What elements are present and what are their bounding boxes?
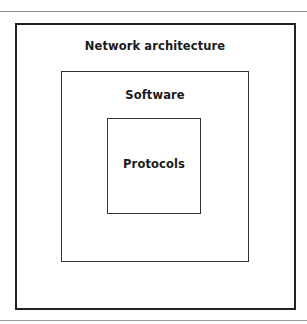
bottom-rule [0, 320, 307, 321]
top-rule [0, 11, 307, 12]
network-architecture-label: Network architecture [85, 39, 225, 53]
protocols-label: Protocols [123, 157, 185, 171]
software-label: Software [125, 88, 184, 102]
